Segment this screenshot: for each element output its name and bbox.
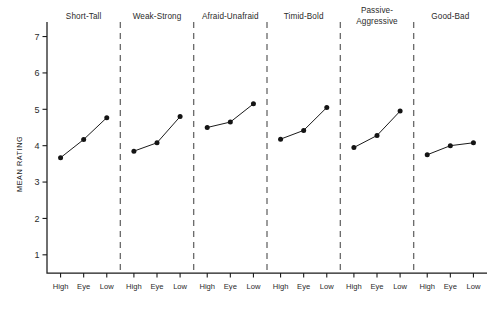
- data-point-marker: [324, 105, 329, 110]
- y-axis-title: MEAN RATING: [15, 136, 24, 192]
- mean-rating-line-chart: 1234567MEAN RATINGShort-TallHighEyeLowWe…: [0, 0, 492, 312]
- y-tick-label: 3: [34, 177, 39, 187]
- data-point-marker: [375, 133, 380, 138]
- panel-title: Good-Bad: [431, 12, 469, 21]
- chart-panel: Short-TallHighEyeLow: [53, 12, 114, 291]
- chart-panel: Afraid-UnafraidHighEyeLow: [194, 12, 261, 291]
- x-tick-label: Low: [100, 282, 114, 291]
- x-tick-label: High: [346, 282, 362, 291]
- series-line: [134, 117, 180, 152]
- x-tick-label: Eye: [77, 282, 90, 291]
- data-point-marker: [81, 137, 86, 142]
- x-tick-label: Eye: [224, 282, 237, 291]
- x-tick-label: High: [273, 282, 289, 291]
- chart-figure: 1234567MEAN RATINGShort-TallHighEyeLowWe…: [0, 0, 492, 312]
- data-point-marker: [471, 140, 476, 145]
- x-tick-label: Low: [173, 282, 187, 291]
- data-point-marker: [205, 125, 210, 130]
- panel-title: Weak-Strong: [133, 12, 182, 21]
- x-tick-label: Low: [246, 282, 260, 291]
- chart-panel: Good-BadHighEyeLow: [414, 12, 481, 291]
- panel-title: Aggressive: [356, 17, 398, 26]
- panel-title: Short-Tall: [66, 12, 102, 21]
- data-point-marker: [104, 115, 109, 120]
- series-line: [354, 111, 400, 147]
- x-tick-label: High: [199, 282, 215, 291]
- data-point-marker: [301, 128, 306, 133]
- data-point-marker: [155, 140, 160, 145]
- y-tick-label: 5: [34, 105, 39, 115]
- x-tick-label: Eye: [297, 282, 310, 291]
- x-tick-label: Eye: [150, 282, 163, 291]
- chart-panel: Weak-StrongHighEyeLow: [120, 12, 187, 291]
- data-point-marker: [448, 143, 453, 148]
- x-tick-label: Low: [393, 282, 407, 291]
- y-tick-label: 2: [34, 214, 39, 224]
- data-point-marker: [178, 114, 183, 119]
- x-tick-label: Eye: [370, 282, 383, 291]
- chart-panel: Timid-BoldHighEyeLow: [267, 12, 334, 291]
- x-tick-label: Low: [320, 282, 334, 291]
- data-point-marker: [278, 137, 283, 142]
- y-tick-label: 7: [34, 32, 39, 42]
- panel-title: Passive-: [361, 6, 393, 15]
- panel-title: Timid-Bold: [284, 12, 324, 21]
- x-tick-label: Eye: [444, 282, 457, 291]
- y-tick-label: 4: [34, 141, 39, 151]
- x-tick-label: High: [419, 282, 435, 291]
- data-point-marker: [58, 155, 63, 160]
- data-point-marker: [251, 101, 256, 106]
- data-point-marker: [425, 152, 430, 157]
- panel-title: Afraid-Unafraid: [202, 12, 259, 21]
- x-tick-label: High: [53, 282, 69, 291]
- series-line: [281, 107, 327, 139]
- data-point-marker: [228, 120, 233, 125]
- y-tick-label: 6: [34, 68, 39, 78]
- y-tick-label: 1: [34, 250, 39, 260]
- data-point-marker: [131, 149, 136, 154]
- x-tick-label: Low: [466, 282, 480, 291]
- x-tick-label: High: [126, 282, 142, 291]
- chart-panel: Passive-AggressiveHighEyeLow: [340, 6, 407, 291]
- data-point-marker: [351, 145, 356, 150]
- data-point-marker: [398, 109, 403, 114]
